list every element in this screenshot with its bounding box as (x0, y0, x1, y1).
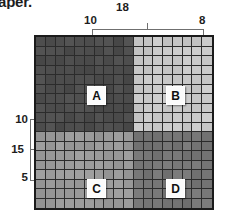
grid-cell (163, 199, 173, 209)
grid-cell (124, 189, 134, 199)
grid-cell (36, 151, 46, 161)
grid-cell (144, 66, 154, 76)
grid-cell (114, 199, 124, 209)
grid-cell (202, 132, 212, 142)
grid-cell (202, 104, 212, 114)
caption-fragment: aper. (0, 0, 32, 9)
grid-cell (114, 75, 124, 85)
region-badge-b: B (166, 86, 185, 105)
grid-cell (46, 75, 56, 85)
grid-cell (56, 142, 66, 152)
top-bracket-center-tick (147, 23, 148, 30)
grid-cell (202, 142, 212, 152)
grid-cell (104, 37, 114, 47)
region-badge-a: A (87, 86, 106, 105)
grid-cell (202, 151, 212, 161)
grid-cell (36, 161, 46, 171)
grid-cell (202, 113, 212, 123)
grid-cell (134, 85, 144, 95)
grid-cell (114, 37, 124, 47)
grid-cell (85, 75, 95, 85)
region-badge-d: D (166, 179, 185, 198)
grid-cell (75, 75, 85, 85)
grid-cell (192, 104, 202, 114)
left-bottom-segment-label: 5 (6, 171, 28, 183)
grid-cell (163, 37, 173, 47)
grid-cell (153, 170, 163, 180)
grid-cell (124, 85, 134, 95)
grid-cell (144, 189, 154, 199)
grid-cell (173, 66, 183, 76)
grid-cell (95, 132, 105, 142)
grid-cell (202, 47, 212, 57)
grid-cell (202, 56, 212, 66)
grid-cell (144, 142, 154, 152)
top-left-segment-label: 10 (84, 14, 97, 26)
grid-cell (46, 170, 56, 180)
grid-cell (183, 142, 193, 152)
grid-cell (173, 199, 183, 209)
grid-cell (134, 123, 144, 133)
grid-cell (56, 66, 66, 76)
grid-cell (144, 170, 154, 180)
grid-cell (46, 132, 56, 142)
grid-cell (183, 123, 193, 133)
grid-cell (75, 47, 85, 57)
grid-cell (46, 47, 56, 57)
grid-cell (192, 113, 202, 123)
grid-cell (134, 75, 144, 85)
grid-cell (65, 75, 75, 85)
grid-cell (104, 113, 114, 123)
grid-cell (104, 199, 114, 209)
grid-cell (114, 189, 124, 199)
grid-cell (36, 180, 46, 190)
grid-cell (153, 123, 163, 133)
grid-cell (163, 75, 173, 85)
grid-cell (36, 170, 46, 180)
grid-cell (134, 132, 144, 142)
grid-cell (65, 180, 75, 190)
grid-cell (36, 85, 46, 95)
grid-cell (56, 132, 66, 142)
grid-cell (75, 151, 85, 161)
grid-cell (104, 75, 114, 85)
grid-cell (163, 47, 173, 57)
grid-cell (75, 142, 85, 152)
grid-cell (192, 56, 202, 66)
grid-cell (36, 113, 46, 123)
grid-cell (192, 161, 202, 171)
grid-cell (46, 151, 56, 161)
grid-cell (85, 47, 95, 57)
grid-cell (95, 199, 105, 209)
grid-cell (36, 56, 46, 66)
grid-cell (95, 75, 105, 85)
grid-cell (134, 161, 144, 171)
grid-cell (153, 189, 163, 199)
grid-cell (114, 66, 124, 76)
grid-cell (95, 47, 105, 57)
grid-cell (36, 199, 46, 209)
grid-cell (163, 161, 173, 171)
grid-cell (144, 132, 154, 142)
grid-cell (134, 66, 144, 76)
grid-cell (153, 104, 163, 114)
grid-cell (173, 161, 183, 171)
region-badge-b-label: B (171, 90, 180, 102)
grid-cell (46, 37, 56, 47)
grid-cell (124, 123, 134, 133)
grid-cell (202, 199, 212, 209)
grid-cell (192, 151, 202, 161)
grid-cell (153, 113, 163, 123)
grid-cell (144, 37, 154, 47)
grid-cell (124, 132, 134, 142)
grid-cell (192, 142, 202, 152)
grid-cell (192, 37, 202, 47)
grid-cell (202, 189, 212, 199)
grid-cell (75, 113, 85, 123)
grid-cell (153, 37, 163, 47)
grid-cell (202, 170, 212, 180)
grid-cell (95, 56, 105, 66)
grid-cell (124, 37, 134, 47)
grid-cell (202, 161, 212, 171)
grid-cell (153, 132, 163, 142)
